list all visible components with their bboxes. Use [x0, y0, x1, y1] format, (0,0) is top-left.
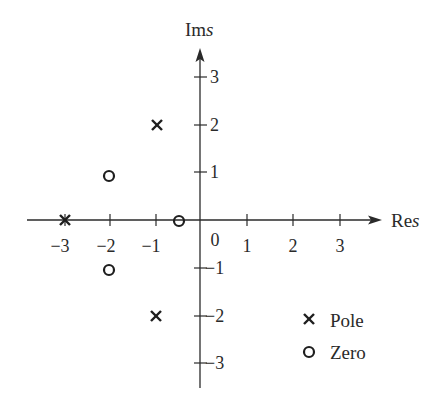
pole-marker-icon [152, 120, 162, 130]
x-tick-label: −1 [141, 236, 160, 256]
x-tick-label: 3 [336, 236, 345, 256]
x-tick-label: −2 [96, 236, 115, 256]
y-tick-label: −1 [205, 258, 224, 278]
legend-pole-icon [304, 314, 314, 324]
zeros [104, 171, 184, 275]
imaginary-axis-label: Ims [185, 19, 214, 40]
origin-label: 0 [211, 230, 220, 250]
zero-marker-icon [174, 216, 184, 226]
legend: Pole Zero [304, 310, 366, 363]
zero-marker-icon [104, 265, 114, 275]
legend-zero-icon [304, 347, 314, 357]
legend-pole-label: Pole [330, 310, 364, 331]
real-axis-label: Res [391, 210, 420, 231]
real-axis: Res [27, 210, 420, 231]
x-tick-label: −3 [50, 236, 69, 256]
y-tick-label: −3 [205, 353, 224, 373]
pole-marker-icon [151, 311, 161, 321]
y-tick-label: 3 [210, 67, 219, 87]
y-tick-label: 2 [210, 115, 219, 135]
zero-marker-icon [104, 171, 114, 181]
x-tick-label: 1 [243, 236, 252, 256]
pole-zero-plot: Res Ims −3 −2 −1 1 2 3 0 3 2 1 −1 −2 −3 [0, 0, 444, 409]
legend-zero-label: Zero [330, 342, 366, 363]
y-tick-label: −2 [205, 306, 224, 326]
x-tick-label: 2 [289, 236, 298, 256]
y-tick-label: 1 [210, 162, 219, 182]
